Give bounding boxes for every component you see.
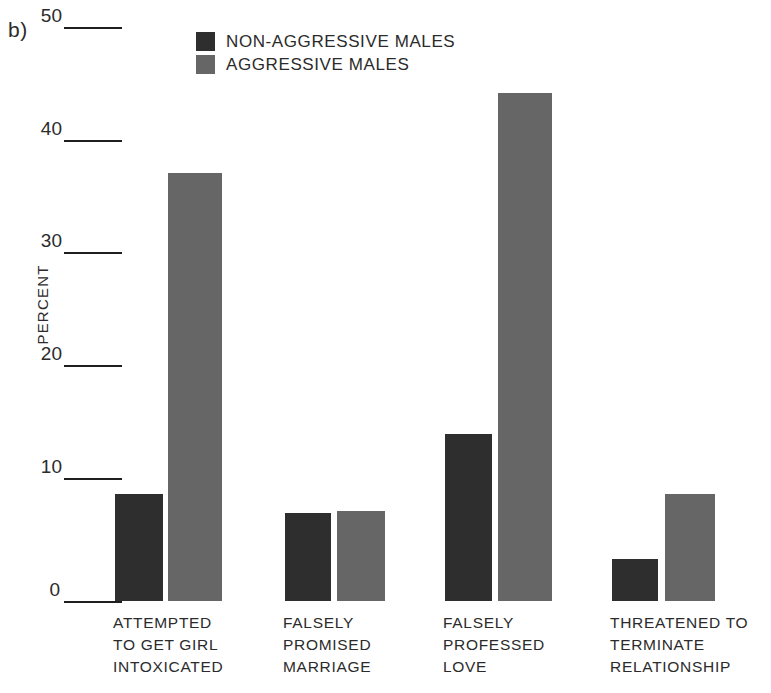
x-axis-label-line: RELATIONSHIP [610,656,748,678]
x-axis-label-3: FALSELYPROFESSEDLOVE [443,612,545,678]
bar-g2-s2 [337,511,385,601]
x-axis-label-2: FALSELYPROMISEDMARRIAGE [283,612,371,678]
chart-figure: b) PERCENT 01020304050 NON-AGGRESSIVE MA… [0,0,771,693]
x-axis-label-1: ATTEMPTEDTO GET GIRLINTOXICATED [113,612,223,678]
x-axis-label-line: THREATENED TO [610,612,748,634]
bar-g3-s2 [498,93,552,601]
x-axis-label-line: PROFESSED [443,634,545,656]
bar-g1-s1 [115,494,163,601]
x-axis-label-line: ATTEMPTED [113,612,223,634]
x-axis-label-line: FALSELY [283,612,371,634]
x-axis-label-line: FALSELY [443,612,545,634]
bar-g4-s2 [665,494,715,601]
x-axis-label-line: PROMISED [283,634,371,656]
x-axis-label-line: TO GET GIRL [113,634,223,656]
x-axis-label-line: TERMINATE [610,634,748,656]
bar-g3-s1 [445,434,492,601]
x-axis-label-line: LOVE [443,656,545,678]
bar-g2-s1 [285,513,331,601]
x-axis-label-4: THREATENED TOTERMINATERELATIONSHIP [610,612,748,678]
x-axis-label-line: INTOXICATED [113,656,223,678]
x-axis-label-line: MARRIAGE [283,656,371,678]
bar-g1-s2 [168,173,222,601]
plot-area [0,0,771,693]
bar-g4-s1 [612,559,658,601]
